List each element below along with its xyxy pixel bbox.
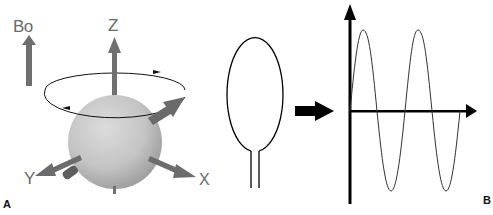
- z-axis-label: Z: [108, 17, 118, 34]
- signal-x-axis: [350, 104, 477, 118]
- panel-b: [344, 4, 477, 204]
- signal-y-axis: [344, 4, 356, 204]
- orbit-arrowhead-left: [62, 106, 70, 110]
- x-axis-arrowhead-icon: [466, 104, 477, 118]
- magnetic-moment-arrow-icon: [148, 97, 185, 125]
- panel-a: [22, 35, 196, 194]
- z-axis-arrow-icon: [108, 37, 121, 100]
- panel-a-label: A: [3, 199, 11, 210]
- transition-arrow-icon: [295, 101, 334, 121]
- y-axis-label: Y: [24, 170, 35, 187]
- x-axis-arrow-icon: [148, 156, 196, 178]
- panel-b-label: B: [483, 195, 491, 206]
- sphere-bottom-stub: [113, 186, 116, 194]
- y-axis-arrowhead-icon: [344, 4, 356, 20]
- x-axis-label: X: [199, 172, 210, 188]
- nmr-precession-figure: Bo Z Y X A B: [0, 0, 493, 215]
- receiver-coil: [227, 38, 283, 188]
- proton-sphere: [68, 95, 162, 189]
- orbit-arrowhead-right: [153, 70, 161, 74]
- figure-canvas: [0, 0, 493, 215]
- bo-field-arrow-icon: [22, 35, 36, 86]
- bo-field-label: Bo: [13, 18, 33, 35]
